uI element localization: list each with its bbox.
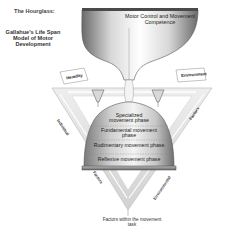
diagram-subtitle: Gallahue's Life Span Model of Motor Deve… (5, 30, 61, 48)
movement-task-label: Factors within the movement task (100, 218, 164, 228)
diagram-title: The Hourglass: (14, 9, 55, 15)
top-bulb-label: Motor Control and Movement Competence (118, 14, 202, 25)
phase-reflexive: Reflexive movement phase (88, 157, 170, 162)
phase-rudimentary: Rudimentary movement phase (88, 143, 170, 148)
phase-fundamental: Fundamental movement phase (100, 128, 158, 139)
phase-specialized: Specialized movement phase (106, 113, 152, 124)
